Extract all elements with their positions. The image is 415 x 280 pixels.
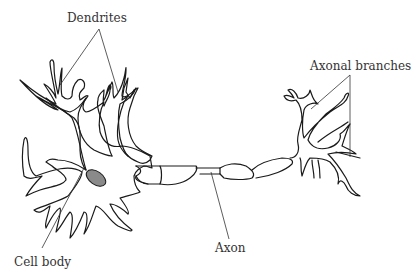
cell-body-and-dendrites bbox=[20, 60, 152, 238]
myelin-segment-4 bbox=[252, 158, 293, 178]
nucleus bbox=[83, 166, 108, 189]
terminal-spur-1 bbox=[312, 160, 320, 178]
dendrite-upper-right bbox=[97, 68, 136, 156]
node-1 bbox=[196, 168, 220, 174]
label-dendrites: Dendrites bbox=[67, 11, 127, 25]
myelin-segment-2 bbox=[160, 166, 197, 185]
label-cell-body: Cell body bbox=[14, 255, 71, 269]
cell-body-leader bbox=[42, 168, 84, 248]
neuron-diagram: Dendrites Axonal branches Axon Cell body bbox=[0, 0, 415, 280]
axon-leader bbox=[211, 172, 229, 239]
axonal-branches-leader bbox=[311, 75, 350, 157]
label-axon: Axon bbox=[214, 241, 246, 255]
terminal-main bbox=[284, 89, 360, 196]
axonal-branches bbox=[284, 89, 360, 196]
dendrites-leader bbox=[60, 29, 118, 92]
soma-main bbox=[23, 98, 153, 238]
axon-hillock bbox=[136, 166, 148, 184]
label-axonal-branches: Axonal branches bbox=[309, 59, 411, 73]
myelin-segment-3 bbox=[220, 164, 254, 180]
axon bbox=[136, 158, 293, 185]
